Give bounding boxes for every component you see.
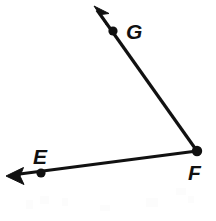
angle-diagram-svg: G F E [0,0,216,221]
ray-fg [94,6,197,151]
point-dot-f [192,146,202,156]
image-artifacts [26,188,194,211]
arrowhead-fe-icon [6,168,24,185]
artifact-mark [176,188,186,195]
point-dot-e [36,168,45,177]
artifact-mark [146,198,158,207]
artifact-mark [188,196,194,203]
artifact-mark [26,200,33,209]
point-label-e: E [33,145,48,168]
artifact-mark [100,205,110,211]
point-label-g: G [126,20,142,43]
artifact-mark [62,198,68,206]
artifact-mark [40,196,49,204]
point-dot-g [108,26,117,35]
geometry-figure: G F E [0,0,216,221]
point-label-f: F [188,161,202,184]
